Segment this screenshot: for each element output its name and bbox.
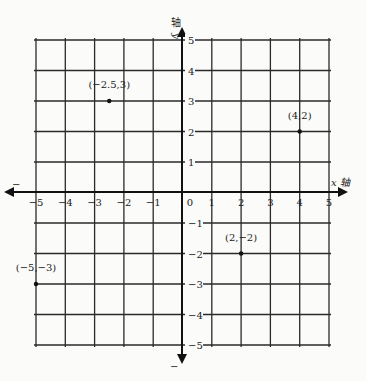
- y-tick-label: −1: [188, 218, 203, 229]
- y-tick-label: 3: [188, 96, 194, 107]
- x-tick-label: 5: [326, 197, 332, 208]
- x-tick-label: 3: [267, 197, 273, 208]
- data-points: (−2.5,3)(4,2)(2,−2)(−5,−3): [16, 79, 312, 286]
- x-tick-label: −5: [29, 197, 44, 208]
- x-tick-label: −4: [58, 197, 73, 208]
- x-tick-label: −1: [146, 197, 161, 208]
- y-tick-label: 2: [188, 127, 194, 138]
- x-tick-label: 2: [238, 197, 244, 208]
- data-point-label: (−2.5,3): [88, 79, 130, 90]
- y-tick-label: 5: [188, 35, 194, 46]
- y-axis-down-arrow-icon: [177, 354, 187, 364]
- x-tick-labels: −5−4−3−2−1012345: [29, 197, 333, 208]
- x-tick-label: −3: [87, 197, 102, 208]
- y-tick-label: −2: [188, 249, 203, 260]
- data-point-label: (−5,−3): [16, 262, 57, 273]
- x-tick-label: 4: [297, 197, 303, 208]
- y-tick-label: −4: [188, 310, 203, 321]
- axes: [4, 27, 348, 364]
- x-axis-label: x 轴: [331, 177, 351, 188]
- data-point-label: (2,−2): [225, 232, 257, 243]
- x-axis-label-var: x: [331, 177, 337, 188]
- data-point-label: (4,2): [288, 110, 312, 121]
- data-point: [34, 282, 38, 286]
- x-tick-label: −2: [117, 197, 132, 208]
- x-negative-marker: −: [12, 179, 20, 190]
- x-tick-label: 0: [187, 197, 193, 208]
- x-axis-label-cn: 轴: [340, 177, 351, 188]
- y-axis-label-var: y: [171, 32, 182, 39]
- y-axis-label-cn: 轴: [171, 16, 181, 28]
- data-point: [239, 251, 243, 255]
- y-tick-label: 4: [188, 66, 194, 77]
- coordinate-plane: −5−4−3−2−1012345 54321−1−2−3−4−5 (−2.5,3…: [0, 0, 366, 381]
- y-tick-label: −5: [188, 340, 203, 351]
- y-tick-label: 1: [188, 157, 194, 168]
- x-axis-right-arrow-icon: [338, 187, 348, 197]
- y-tick-label: −3: [188, 279, 203, 290]
- data-point: [107, 99, 111, 103]
- x-tick-label: 1: [209, 197, 215, 208]
- y-negative-marker: −: [170, 361, 178, 372]
- data-point: [298, 129, 302, 133]
